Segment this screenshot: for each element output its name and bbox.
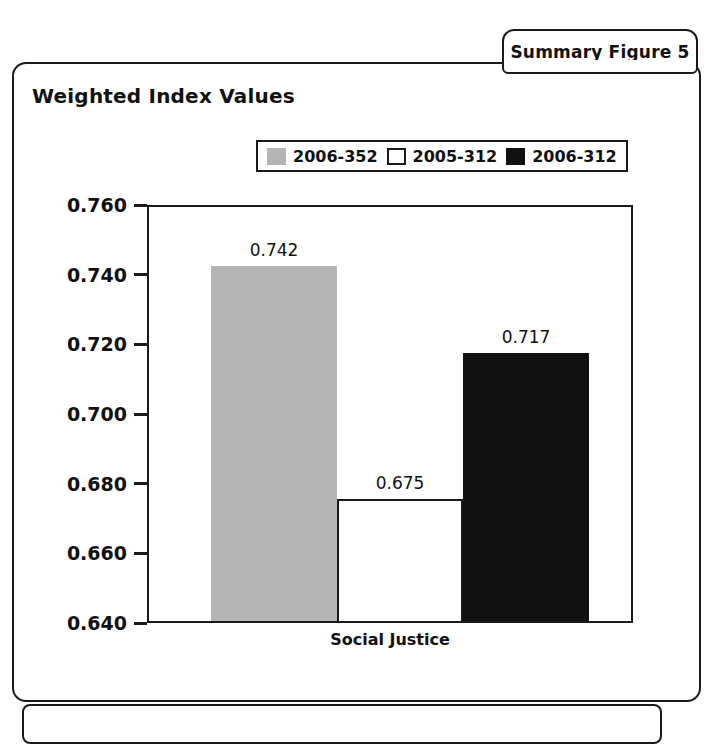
lower-panel (22, 704, 662, 744)
bar-value-label: 0.742 (211, 240, 337, 260)
legend-entry-2005-312[interactable]: 2005-312 (387, 147, 498, 166)
bar-value-label: 0.717 (463, 327, 589, 347)
y-axis-tick-mark (134, 273, 147, 276)
legend-label: 2005-312 (413, 147, 498, 166)
y-axis-tick-mark (134, 552, 147, 555)
y-axis-tick-label: 0.760 (67, 194, 127, 216)
y-axis: 0.7600.7400.7200.7000.6800.6600.640 (0, 205, 147, 623)
legend-swatch-icon (267, 148, 286, 165)
legend-swatch-icon (387, 148, 406, 165)
y-axis-tick-label: 0.660 (67, 542, 127, 564)
x-axis-category-label: Social Justice (147, 630, 633, 649)
y-axis-tick-label: 0.720 (67, 333, 127, 355)
figure-tab[interactable]: Summary Figure 5 (502, 29, 698, 74)
bar-value-label: 0.675 (337, 473, 463, 493)
y-axis-tick-label: 0.640 (67, 612, 127, 634)
y-axis-tick-mark (134, 343, 147, 346)
y-axis-tick-label: 0.740 (67, 264, 127, 286)
bar-2006-312 (463, 353, 589, 621)
plot-area: 0.7420.6750.717 (147, 205, 633, 623)
legend-swatch-icon (506, 148, 525, 165)
y-axis-tick-label: 0.680 (67, 473, 127, 495)
bar-2006-352 (211, 266, 337, 621)
plot-inner: 0.7420.6750.717 (149, 207, 631, 621)
legend-label: 2006-352 (293, 147, 378, 166)
y-axis-tick-mark (134, 622, 147, 625)
chart-title: Weighted Index Values (32, 84, 295, 108)
figure-tab-label: Summary Figure 5 (510, 42, 689, 62)
legend-label: 2006-312 (532, 147, 617, 166)
bar-2005-312 (337, 499, 463, 621)
y-axis-tick-mark (134, 204, 147, 207)
legend-entry-2006-312[interactable]: 2006-312 (506, 147, 617, 166)
y-axis-tick-mark (134, 482, 147, 485)
tab-panel-joint (506, 60, 694, 67)
chart-legend: 2006-352 2005-312 2006-312 (256, 140, 628, 172)
legend-entry-2006-352[interactable]: 2006-352 (267, 147, 378, 166)
y-axis-tick-label: 0.700 (67, 403, 127, 425)
y-axis-tick-mark (134, 413, 147, 416)
